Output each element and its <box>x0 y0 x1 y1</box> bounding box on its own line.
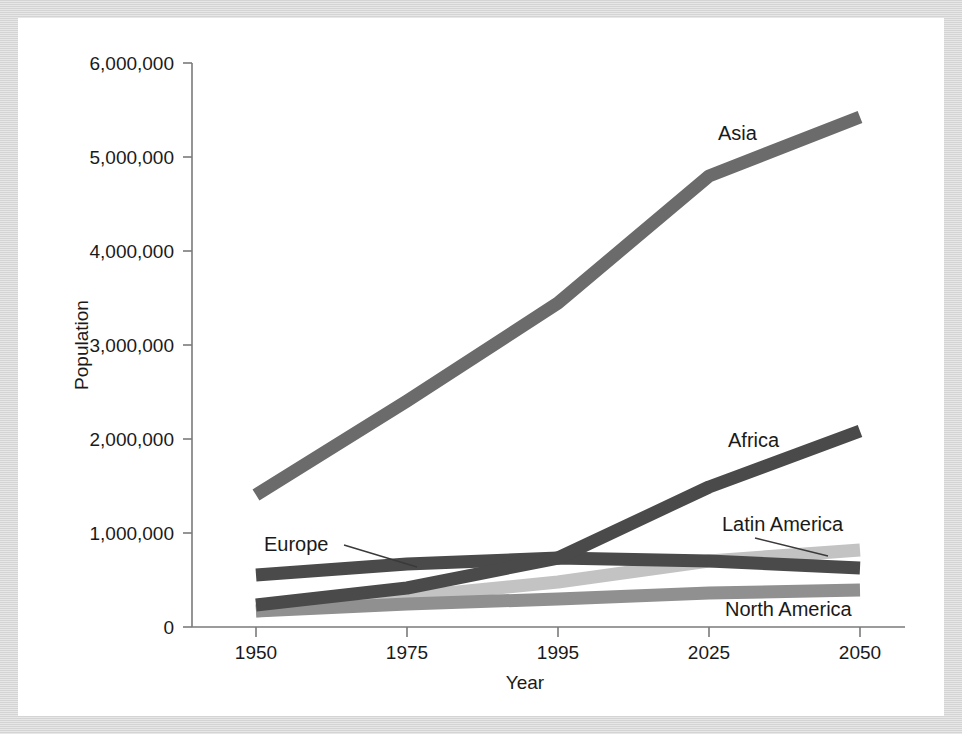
y-tick-labels: 0 1,000,000 2,000,000 3,000,000 4,000,00… <box>89 53 174 638</box>
x-tick-label-1950: 1950 <box>235 642 277 663</box>
x-axis-title: Year <box>506 672 545 693</box>
y-tick-label-0: 0 <box>163 617 174 638</box>
y-tick-label-4000000: 4,000,000 <box>89 241 174 262</box>
line-chart: 0 1,000,000 2,000,000 3,000,000 4,000,00… <box>0 0 962 734</box>
x-tick-label-1995: 1995 <box>537 642 579 663</box>
x-tick-label-2050: 2050 <box>839 642 881 663</box>
x-tick-labels: 1950 1975 1995 2025 2050 <box>235 642 881 663</box>
x-tick-label-1975: 1975 <box>386 642 428 663</box>
figure-frame: 0 1,000,000 2,000,000 3,000,000 4,000,00… <box>0 0 962 734</box>
x-tick-label-2025: 2025 <box>688 642 730 663</box>
y-tick-label-3000000: 3,000,000 <box>89 335 174 356</box>
series-label-asia: Asia <box>718 122 758 144</box>
series-label-latin-america: Latin America <box>722 513 844 535</box>
y-tick-label-1000000: 1,000,000 <box>89 523 174 544</box>
series-label-africa: Africa <box>728 429 780 451</box>
y-axis-title: Population <box>71 300 92 390</box>
y-tick-label-2000000: 2,000,000 <box>89 429 174 450</box>
series-group <box>256 117 860 611</box>
chart-canvas: 0 1,000,000 2,000,000 3,000,000 4,000,00… <box>0 0 962 734</box>
y-tick-label-5000000: 5,000,000 <box>89 147 174 168</box>
series-label-north-america: North America <box>725 598 853 620</box>
series-label-europe: Europe <box>264 533 329 555</box>
y-tick-label-6000000: 6,000,000 <box>89 53 174 74</box>
